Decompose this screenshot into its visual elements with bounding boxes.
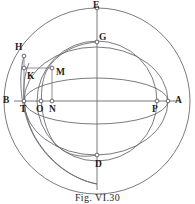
point-dot-k xyxy=(22,66,26,70)
geometry-figure: E G H K M B T O N P A D Fig. VI.30 xyxy=(0,0,195,204)
point-label-b: B xyxy=(3,96,10,106)
point-label-t: T xyxy=(20,105,27,115)
point-dot-d xyxy=(95,153,99,157)
point-dot-p xyxy=(155,99,159,103)
point-label-n: N xyxy=(49,105,56,115)
point-dot-n xyxy=(50,99,54,103)
point-label-e: E xyxy=(93,1,100,11)
point-label-p: P xyxy=(152,105,158,115)
point-dot-h xyxy=(22,54,26,58)
point-dot-m xyxy=(50,66,54,70)
figure-canvas xyxy=(0,0,195,204)
point-label-m: M xyxy=(56,68,65,78)
point-label-g: G xyxy=(99,33,107,43)
figure-caption: Fig. VI.30 xyxy=(0,192,195,203)
point-dot-a xyxy=(166,99,170,103)
point-label-d: D xyxy=(95,160,102,170)
point-label-o: O xyxy=(36,105,44,115)
point-label-h: H xyxy=(15,43,23,53)
point-label-a: A xyxy=(175,96,182,106)
point-dot-o xyxy=(39,99,43,103)
point-dot-t xyxy=(22,99,26,103)
point-label-k: K xyxy=(27,72,35,82)
